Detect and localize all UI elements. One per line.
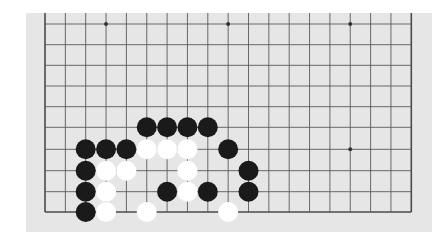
black-stone[interactable] — [76, 161, 96, 181]
black-stone[interactable] — [96, 139, 116, 159]
star-point-icon — [226, 22, 230, 26]
board-grid[interactable] — [26, 13, 432, 232]
white-stone[interactable] — [116, 161, 136, 181]
white-stone[interactable] — [177, 139, 197, 159]
white-stone[interactable] — [218, 202, 238, 222]
white-stone[interactable] — [177, 182, 197, 202]
black-stone[interactable] — [239, 182, 259, 202]
black-stone[interactable] — [76, 202, 96, 222]
black-stone[interactable] — [116, 139, 136, 159]
star-point-icon — [348, 22, 352, 26]
white-stone[interactable] — [157, 139, 177, 159]
black-stone[interactable] — [239, 161, 259, 181]
black-stone[interactable] — [198, 117, 218, 137]
black-stone[interactable] — [137, 117, 157, 137]
black-stone[interactable] — [76, 182, 96, 202]
white-stone[interactable] — [137, 202, 157, 222]
star-point-icon — [104, 22, 108, 26]
white-stone[interactable] — [96, 182, 116, 202]
black-stone[interactable] — [177, 117, 197, 137]
star-point-icon — [348, 147, 352, 151]
white-stone[interactable] — [96, 202, 116, 222]
white-stone[interactable] — [177, 161, 197, 181]
black-stone[interactable] — [76, 139, 96, 159]
white-stone[interactable] — [137, 139, 157, 159]
black-stone[interactable] — [198, 182, 218, 202]
black-stone[interactable] — [157, 117, 177, 137]
white-stone[interactable] — [96, 161, 116, 181]
grid-lines — [45, 13, 411, 212]
go-board[interactable] — [26, 13, 432, 232]
black-stone[interactable] — [218, 139, 238, 159]
black-stone[interactable] — [157, 182, 177, 202]
